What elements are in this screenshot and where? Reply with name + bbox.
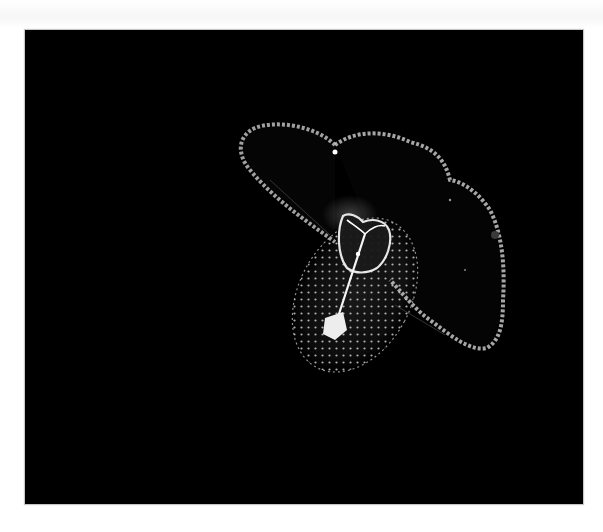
velum-notch-glow (333, 150, 338, 155)
page (0, 0, 603, 532)
larva-illustration (25, 30, 583, 504)
cropped-caption-strip (0, 0, 603, 28)
photo (25, 30, 583, 504)
